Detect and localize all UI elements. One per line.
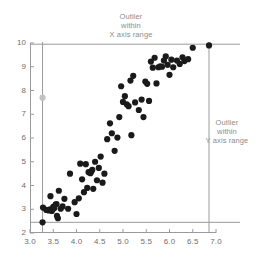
data-point xyxy=(153,80,159,86)
data-point xyxy=(39,219,45,225)
data-point xyxy=(39,95,45,101)
annotation-x-line-3: X axis range xyxy=(78,30,184,39)
data-point xyxy=(116,114,122,120)
data-point xyxy=(136,107,142,113)
data-point xyxy=(96,165,102,171)
data-point xyxy=(98,153,104,159)
data-point xyxy=(118,83,124,89)
data-point xyxy=(170,64,176,70)
plot-area xyxy=(30,43,216,233)
data-point xyxy=(114,134,120,140)
data-point xyxy=(165,62,171,68)
data-point xyxy=(163,53,169,59)
data-point xyxy=(112,148,118,154)
x-tick-label: 5.0 xyxy=(110,238,136,246)
data-point xyxy=(139,96,145,102)
data-point xyxy=(146,98,152,104)
y-tick-label: 7 xyxy=(2,110,26,118)
data-point xyxy=(152,55,158,61)
data-point xyxy=(59,203,65,209)
x-tick-label: 6.5 xyxy=(180,238,206,246)
y-axis-tick-labels: 2345678910 xyxy=(0,43,26,233)
scatter-plot-screenshot: Outlier within X axis range Outlier with… xyxy=(0,0,259,259)
data-point xyxy=(65,206,71,212)
data-point xyxy=(122,93,128,99)
data-point xyxy=(94,177,100,183)
data-point xyxy=(67,171,73,177)
x-axis-tick-labels: 3.03.54.04.55.05.56.06.57.0 xyxy=(30,238,216,250)
annotation-x-axis-outlier: Outlier within X axis range xyxy=(78,12,184,39)
data-point xyxy=(128,132,134,138)
y-tick-label: 4 xyxy=(2,182,26,190)
x-tick-label: 3.5 xyxy=(40,238,66,246)
data-point xyxy=(79,176,85,182)
data-point xyxy=(77,161,83,167)
data-point xyxy=(99,180,105,186)
data-point xyxy=(190,45,196,51)
data-point xyxy=(166,72,172,78)
y-tick-label: 8 xyxy=(2,87,26,95)
x-tick-label: 3.0 xyxy=(17,238,43,246)
data-point xyxy=(130,73,136,79)
data-point xyxy=(101,171,107,177)
data-point xyxy=(83,161,89,167)
data-point xyxy=(73,211,79,217)
data-point xyxy=(53,201,59,207)
data-point xyxy=(185,56,191,62)
y-tick-label: 9 xyxy=(2,63,26,71)
data-point xyxy=(61,196,67,202)
x-tick-label: 5.5 xyxy=(133,238,159,246)
annotation-x-line-1: Outlier xyxy=(78,12,184,21)
data-point xyxy=(159,64,165,70)
data-point xyxy=(90,186,96,192)
outlier-data-points xyxy=(206,42,212,48)
faint-data-points xyxy=(39,95,45,101)
data-point xyxy=(92,159,98,165)
x-tick-label: 7.0 xyxy=(203,238,229,246)
data-point xyxy=(76,195,82,201)
data-point xyxy=(168,57,174,63)
y-tick-label: 5 xyxy=(2,158,26,166)
data-point xyxy=(109,130,115,136)
annotation-x-line-2: within xyxy=(78,21,184,30)
data-point xyxy=(144,81,150,87)
data-point xyxy=(47,193,53,199)
data-point xyxy=(107,120,113,126)
data-point xyxy=(132,99,138,105)
data-point xyxy=(56,188,62,194)
data-point xyxy=(150,65,156,71)
data-point xyxy=(125,103,131,109)
data-point xyxy=(140,114,146,120)
y-tick-label: 6 xyxy=(2,134,26,142)
data-point xyxy=(104,136,110,142)
y-tick-label: 2 xyxy=(2,229,26,237)
y-tick-label: 3 xyxy=(2,205,26,213)
data-point xyxy=(89,167,95,173)
x-tick-label: 4.5 xyxy=(87,238,113,246)
y-tick-label: 10 xyxy=(2,39,26,47)
data-points xyxy=(39,45,195,226)
scatter-canvas xyxy=(30,43,216,233)
x-tick-label: 4.0 xyxy=(64,238,90,246)
x-tick-label: 6.0 xyxy=(157,238,183,246)
data-point xyxy=(84,185,90,191)
data-point xyxy=(206,42,212,48)
data-point xyxy=(55,215,61,221)
